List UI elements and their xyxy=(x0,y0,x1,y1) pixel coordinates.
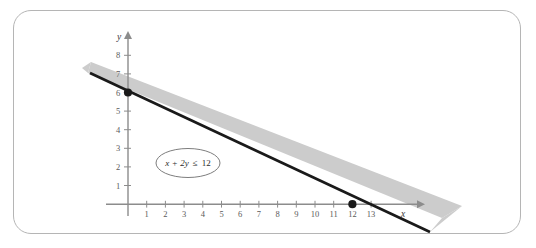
y-intercept-point xyxy=(124,88,132,96)
equation-annotation: x+2y≤12 xyxy=(156,149,220,178)
annotation-term-2y: 2y xyxy=(180,158,189,168)
shaded-solution-region xyxy=(82,62,462,232)
x-tick-label-11: 11 xyxy=(330,209,338,219)
y-tick-label-8: 8 xyxy=(116,50,120,60)
x-tick-label-13: 13 xyxy=(367,209,376,219)
annotation-var-x: x xyxy=(164,158,169,168)
annotation-plus: + xyxy=(172,158,177,168)
y-tick-label-5: 5 xyxy=(116,106,120,116)
y-tick-label-6: 6 xyxy=(116,88,120,98)
x-tick-label-6: 6 xyxy=(238,209,242,219)
annotation-equation: x+2y≤12 xyxy=(164,158,211,168)
x-tick-label-1: 1 xyxy=(145,209,149,219)
annotation-relation: ≤ xyxy=(193,158,198,168)
x-tick-label-5: 5 xyxy=(219,209,223,219)
y-tick-label-7: 7 xyxy=(116,69,120,79)
x-tick-label-12: 12 xyxy=(348,209,357,219)
x-tick-label-4: 4 xyxy=(201,209,206,219)
y-axis: 1 2 3 4 5 6 7 8 y xyxy=(116,32,131,216)
x-tick-label-8: 8 xyxy=(275,209,279,219)
x-tick-label-7: 7 xyxy=(257,209,261,219)
figure-root: 1 2 3 4 5 6 7 8 y xyxy=(0,0,536,248)
annotation-constant: 12 xyxy=(202,158,211,168)
y-tick-label-2: 2 xyxy=(116,162,120,172)
x-intercept-point xyxy=(348,200,356,208)
x-tick-label-10: 10 xyxy=(311,209,320,219)
y-tick-label-4: 4 xyxy=(116,125,121,135)
y-axis-label: y xyxy=(116,32,122,42)
x-tick-label-2: 2 xyxy=(163,209,167,219)
coordinate-plot: 1 2 3 4 5 6 7 8 y xyxy=(0,0,536,248)
y-tick-label-1: 1 xyxy=(116,181,120,191)
y-tick-label-3: 3 xyxy=(116,143,120,153)
x-tick-label-9: 9 xyxy=(294,209,298,219)
x-tick-label-3: 3 xyxy=(182,209,186,219)
